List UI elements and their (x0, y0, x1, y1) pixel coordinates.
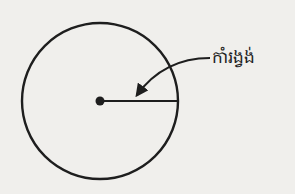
circle-radius-diagram: កាំរង្វង់ (0, 0, 295, 194)
diagram-canvas (0, 0, 295, 194)
radius-label: កាំរង្វង់ (212, 46, 255, 71)
center-point (96, 97, 105, 106)
